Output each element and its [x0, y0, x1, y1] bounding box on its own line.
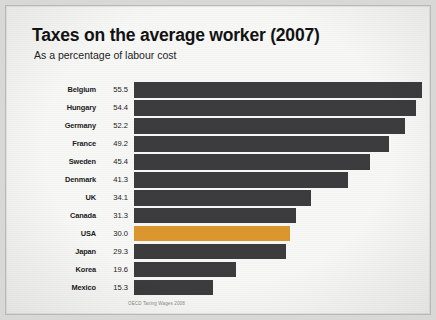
bar-category-label: Japan — [16, 247, 102, 256]
bar-row: Mexico15.3 — [16, 280, 422, 296]
chart-card: Taxes on the average worker (2007) As a … — [5, 5, 431, 315]
chart-source-note: OECD Taxing Wages 2008 — [128, 301, 185, 306]
bar-category-label: France — [16, 139, 102, 148]
bar-row: Germany52.2 — [16, 118, 422, 134]
bar-row: UK34.1 — [16, 190, 422, 206]
bar-value-label: 34.1 — [102, 193, 134, 202]
bar — [134, 280, 213, 296]
bar-value-label: 55.5 — [102, 85, 134, 94]
bar-category-label: Korea — [16, 265, 102, 274]
bar-category-label: Sweden — [16, 157, 102, 166]
bar-track — [134, 208, 422, 224]
bar-track — [134, 190, 422, 206]
bar-category-label: USA — [16, 229, 102, 238]
chart-inner: Taxes on the average worker (2007) As a … — [16, 14, 422, 310]
bar-value-label: 52.2 — [102, 121, 134, 130]
bar-track — [134, 118, 422, 134]
bar-value-label: 31.3 — [102, 211, 134, 220]
bar — [134, 100, 416, 116]
bar-row: Japan29.3 — [16, 244, 422, 260]
bar-category-label: UK — [16, 193, 102, 202]
bar-highlighted — [134, 226, 290, 242]
bar-row: Sweden45.4 — [16, 154, 422, 170]
bar — [134, 208, 296, 224]
bar — [134, 244, 286, 260]
bar-category-label: Hungary — [16, 103, 102, 112]
chart-title: Taxes on the average worker (2007) — [16, 14, 422, 45]
bar-category-label: Belgium — [16, 85, 102, 94]
bar — [134, 82, 422, 98]
bar-value-label: 30.0 — [102, 229, 134, 238]
bar — [134, 190, 311, 206]
bar — [134, 136, 389, 152]
bar-value-label: 54.4 — [102, 103, 134, 112]
bar-chart-plot: Belgium55.5Hungary54.4Germany52.2France4… — [16, 82, 422, 288]
bar-track — [134, 244, 422, 260]
bar-value-label: 41.3 — [102, 175, 134, 184]
bar-row: Canada31.3 — [16, 208, 422, 224]
bar-row: Hungary54.4 — [16, 100, 422, 116]
chart-subtitle: As a percentage of labour cost — [16, 45, 422, 62]
bar — [134, 154, 370, 170]
bar-row: Belgium55.5 — [16, 82, 422, 98]
bar-track — [134, 262, 422, 278]
bar-category-label: Mexico — [16, 283, 102, 292]
bar-row: France49.2 — [16, 136, 422, 152]
bar-value-label: 49.2 — [102, 139, 134, 148]
bar-value-label: 29.3 — [102, 247, 134, 256]
bar-track — [134, 82, 422, 98]
bar-track — [134, 172, 422, 188]
bar-value-label: 45.4 — [102, 157, 134, 166]
bar-category-label: Denmark — [16, 175, 102, 184]
bar-row: Korea19.6 — [16, 262, 422, 278]
bar-track — [134, 154, 422, 170]
bar-value-label: 19.6 — [102, 265, 134, 274]
bar-track — [134, 136, 422, 152]
bar-value-label: 15.3 — [102, 283, 134, 292]
bar — [134, 118, 405, 134]
bar-track — [134, 226, 422, 242]
bar-row: USA30.0 — [16, 226, 422, 242]
bar-row: Denmark41.3 — [16, 172, 422, 188]
bar-category-label: Canada — [16, 211, 102, 220]
bar-category-label: Germany — [16, 121, 102, 130]
bar-track — [134, 280, 422, 296]
bar — [134, 172, 348, 188]
bar — [134, 262, 236, 278]
bar-track — [134, 100, 422, 116]
